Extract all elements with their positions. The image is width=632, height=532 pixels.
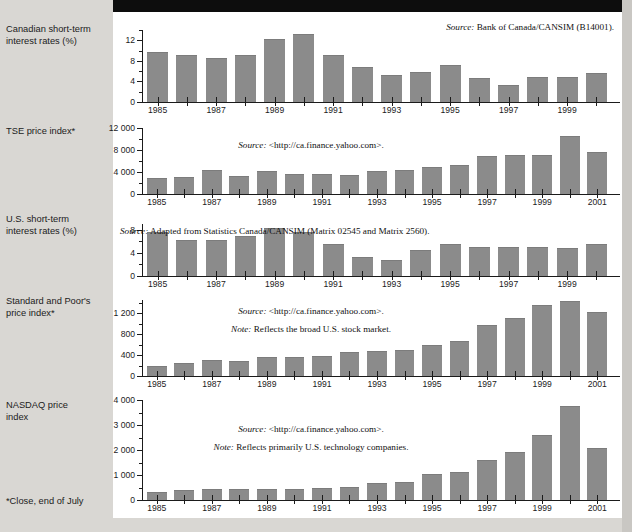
y-axis-tick-label: 12 000 [63,124,135,133]
x-axis-line [142,376,620,377]
x-axis-tick-label: 1985 [137,198,177,207]
x-tick [570,371,571,380]
x-axis-line [142,276,620,277]
x-tick [515,371,516,380]
y-tick-minor [139,438,142,439]
x-tick [187,97,188,106]
note-label: Note: [231,324,251,334]
x-axis-tick-label: 1989 [255,106,295,115]
note-text: Reflects primarily U.S. technology compa… [236,442,408,452]
y-tick-major [137,172,142,173]
y-tick-minor [139,463,142,464]
x-tick [570,189,571,198]
source-line-us-short-term-interest-rates: Source: Adapted from Statistics Canada/C… [120,226,429,237]
x-tick [479,271,480,280]
x-tick [596,271,597,280]
bar [587,312,607,376]
y-axis-tick-label: 4 [63,249,135,258]
x-axis-tick-label: 1985 [138,106,178,115]
x-axis-tick-label: 1985 [137,504,177,513]
x-axis-tick-label: 1997 [489,106,529,115]
x-axis-tick-label: 1991 [302,198,342,207]
x-tick [239,495,240,504]
y-axis-tick-label: 400 [63,351,135,360]
x-axis-tick-label: 1989 [255,280,295,289]
x-tick [362,97,363,106]
bar [235,55,256,102]
source-label: Source: [120,226,148,236]
x-tick [596,97,597,106]
bar [293,232,314,276]
y-tick-minor [139,51,142,52]
chart-panel-nasdaq-price-index: 01 0002 0003 0004 0001985198719891991199… [113,392,622,518]
x-axis-tick-label: 1991 [313,106,353,115]
x-axis-tick-label: 1989 [247,504,287,513]
x-axis-tick-label: 1991 [302,380,342,389]
y-axis-tick-label: 0 [63,272,135,281]
x-axis-tick-label: 1999 [547,280,587,289]
y-tick-major [137,194,142,195]
y-tick-major [137,355,142,356]
x-tick [349,371,350,380]
footnote-close-end-of-july: *Close, end of July [6,496,84,506]
chart-panel-us-short-term-interest-rates: 04819851987198919911993199519971999 [113,210,622,292]
x-axis-tick-label: 1993 [372,280,412,289]
source-text: <http://ca.finance.yahoo.com>. [269,424,384,434]
x-axis-tick-label: 1989 [247,198,287,207]
x-axis-tick-label: 1987 [192,380,232,389]
x-axis-tick-label: 1999 [522,504,562,513]
bar [293,34,314,102]
x-tick [515,189,516,198]
y-tick-major [137,128,142,129]
source-line-canadian-short-term-interest-rates: Source: Bank of Canada/CANSIM (B14001). [446,22,614,33]
source-line-nasdaq-price-index: Source: <http://ca.finance.yahoo.com>. [0,424,622,435]
x-axis-tick-label: 1997 [467,504,507,513]
x-tick [239,371,240,380]
y-tick-minor [139,413,142,414]
x-tick [538,97,539,106]
y-tick-minor [139,161,142,162]
figure-page: Canadian short-terminterest rates (%)048… [0,0,632,532]
x-tick [460,495,461,504]
x-axis-tick-label: 1985 [138,280,178,289]
x-tick [538,271,539,280]
bar [147,52,168,102]
x-tick [460,371,461,380]
x-tick [294,495,295,504]
y-tick-minor [139,241,142,242]
y-axis-tick-label: 0 [63,98,135,107]
y-tick-major [137,40,142,41]
x-tick [362,271,363,280]
y-axis-tick-label: 4 [63,77,135,86]
y-tick-minor [139,30,142,31]
x-tick [187,271,188,280]
bar [587,448,607,500]
x-tick [184,371,185,380]
bar [587,152,607,194]
x-axis-tick-label: 1991 [313,280,353,289]
bar [176,55,197,102]
y-tick-major [137,400,142,401]
y-tick-minor [139,183,142,184]
x-tick [421,271,422,280]
chart-panel-tse-price-index: 04 0008 00012 00019851987198919911993199… [113,118,622,210]
x-axis-tick-label: 1993 [357,504,397,513]
x-axis-tick-label: 1989 [247,380,287,389]
x-tick [184,189,185,198]
x-tick [294,189,295,198]
plot-area-canadian-short-term-interest-rates: 0481219851987198919911993199519971999 [143,30,611,102]
note-line-nasdaq-price-index: Note: Reflects primarily U.S. technology… [0,442,622,453]
bar [323,55,344,102]
x-tick [421,97,422,106]
x-axis-line [142,500,620,501]
x-tick [245,97,246,106]
x-axis-tick-label: 1993 [372,106,412,115]
y-axis-tick-label: 0 [63,372,135,381]
source-label: Source: [238,424,266,434]
x-axis-tick-label: 1987 [196,280,236,289]
x-axis-tick-label: 1997 [467,198,507,207]
x-axis-tick-label: 1987 [192,198,232,207]
x-axis-line [142,194,620,195]
x-tick [515,495,516,504]
top-black-band [113,0,632,12]
